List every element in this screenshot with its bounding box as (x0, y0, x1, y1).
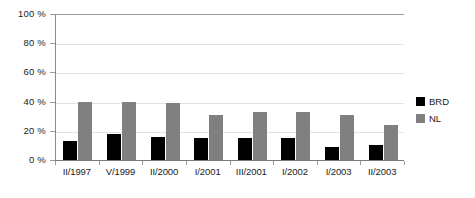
legend-label: BRD (429, 97, 449, 107)
x-axis-tick-label: I/2002 (273, 167, 317, 177)
x-axis-tickmark (273, 161, 274, 165)
bar-nl (78, 102, 92, 160)
x-axis-tick-label: I/2001 (186, 167, 230, 177)
x-axis-tick-label: I/2003 (317, 167, 361, 177)
y-axis-tick-label: 20 % (0, 126, 46, 136)
plot-inner (56, 15, 404, 160)
bar-nl (384, 125, 398, 160)
bar-brd (151, 137, 165, 160)
bar-group (194, 15, 223, 160)
y-axis: 0 %20 %40 %60 %80 %100 % (0, 0, 46, 198)
bar-chart: 0 %20 %40 %60 %80 %100 % II/1997V/1999II… (0, 0, 475, 198)
x-axis-tickmark (360, 161, 361, 165)
x-axis-tick-label: II/1997 (55, 167, 99, 177)
bar-brd (194, 138, 208, 160)
y-axis-tick-label: 60 % (0, 67, 46, 77)
x-axis-tickmark (142, 161, 143, 165)
x-axis-tick-label: II/2003 (360, 167, 404, 177)
bar-group (369, 15, 398, 160)
bar-brd (369, 145, 383, 160)
bar-brd (238, 138, 252, 160)
bar-nl (340, 115, 354, 160)
bar-nl (166, 103, 180, 160)
bar-group (325, 15, 354, 160)
x-axis-tick-label: III/2001 (230, 167, 274, 177)
bar-brd (281, 138, 295, 160)
x-axis-tickmark (55, 161, 56, 165)
x-axis-tickmark (230, 161, 231, 165)
bar-brd (107, 134, 121, 160)
x-axis-tickmark (404, 161, 405, 165)
bar-brd (325, 147, 339, 160)
chart-legend: BRDNL (416, 93, 475, 127)
bar-group (281, 15, 310, 160)
bar-nl (253, 112, 267, 160)
x-axis-tick-label: II/2000 (142, 167, 186, 177)
plot-area (55, 14, 404, 160)
bar-nl (122, 102, 136, 160)
x-axis-tickmark (317, 161, 318, 165)
legend-swatch-icon (416, 114, 425, 123)
legend-label: NL (429, 114, 441, 124)
bar-group (107, 15, 136, 160)
legend-entry: BRD (416, 93, 475, 110)
x-axis-tickmark (186, 161, 187, 165)
legend-entry: NL (416, 110, 475, 127)
bar-group (63, 15, 92, 160)
x-axis-tickmark (99, 161, 100, 165)
legend-swatch-icon (416, 97, 425, 106)
y-axis-tick-label: 80 % (0, 38, 46, 48)
y-axis-tick-label: 0 % (0, 155, 46, 165)
bar-nl (296, 112, 310, 160)
y-axis-tick-label: 100 % (0, 9, 46, 19)
bar-group (238, 15, 267, 160)
bar-group (151, 15, 180, 160)
bar-brd (63, 141, 77, 160)
y-axis-tick-label: 40 % (0, 97, 46, 107)
bar-nl (209, 115, 223, 160)
x-axis-tick-label: V/1999 (99, 167, 143, 177)
